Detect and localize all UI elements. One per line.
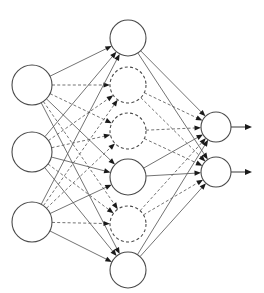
edge-hidden-output	[137, 144, 205, 254]
neural-network-diagram	[0, 0, 264, 293]
edge-arrowhead	[105, 118, 112, 123]
edge-hidden-output	[143, 182, 198, 214]
edge-input-hidden	[52, 222, 104, 223]
edge-input-hidden	[41, 59, 117, 204]
edge-arrowhead	[105, 46, 112, 51]
edge-input-hidden	[46, 99, 111, 161]
edge-input-hidden	[48, 98, 108, 140]
edge-arrowhead	[104, 168, 111, 173]
edge-arrowhead	[108, 143, 115, 149]
node-o1[interactable]	[201, 112, 231, 142]
edge-input-hidden	[50, 48, 107, 76]
edge-hidden-output	[144, 93, 197, 118]
node-h3[interactable]	[110, 113, 146, 149]
edge-input-hidden	[50, 231, 107, 260]
node-i3[interactable]	[12, 202, 52, 242]
node-i1[interactable]	[12, 65, 52, 105]
edge-arrowhead	[105, 185, 112, 190]
edge-arrowhead	[103, 221, 110, 226]
edge-input-hidden	[43, 101, 114, 204]
edge-arrowhead	[194, 125, 201, 130]
node-h6[interactable]	[110, 252, 146, 288]
edge-arrowhead	[196, 134, 203, 139]
edge-arrowhead	[194, 171, 201, 176]
edge-input-hidden	[45, 168, 114, 252]
edge-arrowhead	[105, 257, 112, 262]
edge-arrowhead	[104, 134, 111, 139]
edge-arrowhead	[112, 100, 118, 107]
edge-arrowhead	[245, 124, 252, 130]
edge-arrowhead	[106, 95, 113, 101]
edges-hidden-to-output-group	[137, 51, 208, 257]
edge-hidden-output	[140, 187, 202, 256]
edge-arrowhead	[196, 180, 203, 186]
node-h1[interactable]	[110, 20, 146, 56]
edge-arrowhead	[245, 169, 252, 175]
edge-hidden-output	[146, 173, 196, 176]
edges-input-to-hidden-group	[41, 46, 119, 262]
edge-input-hidden	[48, 164, 109, 210]
edge-arrowhead	[112, 202, 118, 209]
node-h5[interactable]	[110, 206, 146, 242]
edge-input-hidden	[50, 94, 107, 121]
edge-arrowhead	[195, 115, 202, 120]
node-h4[interactable]	[110, 159, 146, 195]
output-arrows-group	[231, 124, 252, 175]
network-canvas	[0, 0, 264, 293]
edge-arrowhead	[107, 207, 114, 213]
node-o2[interactable]	[201, 157, 231, 187]
node-h2[interactable]	[110, 67, 146, 103]
edge-input-hidden	[41, 103, 117, 249]
edge-arrowhead	[195, 161, 202, 166]
node-i2[interactable]	[12, 132, 52, 172]
edge-input-hidden	[47, 147, 111, 208]
edge-hidden-output	[141, 98, 202, 158]
